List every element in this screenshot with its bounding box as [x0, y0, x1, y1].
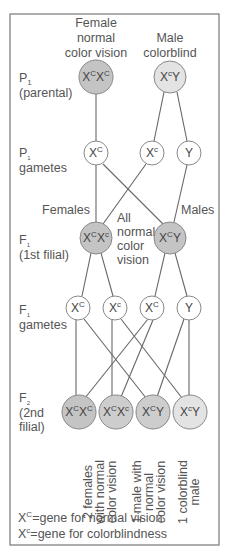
p1-gamete-node: XC	[84, 141, 108, 165]
p1-female-node: XCXC	[79, 60, 113, 94]
row-label-p1-gametes: P1 gametes	[19, 146, 67, 175]
row-label-f1-gametes: F1 gametes	[19, 303, 67, 332]
caption-female-parent: Female normal color vision	[65, 16, 128, 60]
svg-text:Y: Y	[185, 146, 193, 160]
svg-text:colorblind: colorblind	[143, 46, 197, 60]
p1-gamete-node: Y	[177, 141, 201, 165]
row-label-f1: F1 (1st filial)	[19, 233, 69, 262]
svg-text:P1: P1	[19, 146, 31, 161]
f2-node: XcY	[173, 395, 207, 429]
svg-text:color: color	[117, 239, 144, 253]
svg-text:All: All	[117, 211, 131, 225]
inheritance-diagram: P1 (parental) P1 gametes F1 (1st filial)…	[0, 0, 230, 555]
f1-gamete-node: XC	[66, 296, 90, 320]
svg-text:XC=gene for normal vision: XC=gene for normal vision	[18, 510, 162, 525]
f1-female-node: XCXc	[80, 222, 112, 254]
svg-text:(2nd: (2nd	[19, 406, 44, 420]
svg-text:(1st filial): (1st filial)	[19, 248, 69, 262]
svg-text:F2: F2	[19, 391, 31, 406]
f1-gamete-node: Y	[177, 296, 201, 320]
svg-text:color vision: color vision	[65, 46, 128, 60]
svg-text:gametes: gametes	[19, 161, 67, 175]
f2-node: XCY	[136, 395, 170, 429]
males-label: Males	[181, 203, 214, 217]
svg-text:F1: F1	[19, 303, 31, 318]
legend: XC=gene for normal vision Xc=gene for co…	[18, 510, 167, 541]
p1-male-node: XcY	[154, 61, 186, 93]
f1-male-node: XCY	[154, 222, 186, 254]
svg-text:P1: P1	[19, 71, 32, 87]
svg-text:(parental): (parental)	[19, 86, 73, 100]
svg-text:F1: F1	[19, 233, 31, 248]
row-label-p1: P1 (parental)	[19, 71, 73, 100]
females-label: Females	[42, 203, 90, 217]
svg-text:normal: normal	[77, 31, 115, 45]
svg-text:Xc=gene for colorblindness: Xc=gene for colorblindness	[18, 526, 167, 541]
svg-text:filial): filial)	[19, 420, 45, 434]
svg-text:Y: Y	[185, 301, 193, 315]
caption-male-parent: Male colorblind	[143, 31, 197, 60]
svg-text:Female: Female	[75, 16, 117, 30]
f1-note: All normal color vision	[117, 211, 155, 267]
f1-gamete-node: Xc	[103, 296, 127, 320]
svg-text:gametes: gametes	[19, 318, 67, 332]
row-label-f2: F2 (2nd filial)	[19, 391, 45, 434]
p1-gamete-node: Xc	[140, 141, 164, 165]
f2-node: XCXC	[62, 395, 96, 429]
svg-text:normal: normal	[117, 225, 155, 239]
svg-text:male: male	[188, 478, 202, 505]
svg-text:Male: Male	[156, 31, 183, 45]
f2-caption-colorblind-male: 1 colorblind male	[176, 460, 202, 524]
f1-gamete-node: XC	[140, 296, 164, 320]
svg-text:vision: vision	[117, 253, 149, 267]
f2-node: XCXc	[99, 395, 133, 429]
